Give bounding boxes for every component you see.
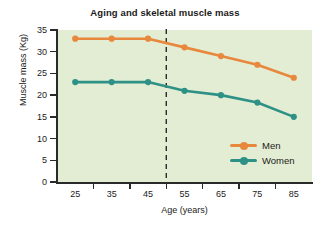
y-tick-mark <box>50 138 57 139</box>
x-tick-label: 75 <box>237 189 277 199</box>
x-tick-label: 65 <box>201 189 241 199</box>
y-tick-mark <box>50 94 57 95</box>
x-tick-label: 45 <box>128 189 168 199</box>
y-tick-mark <box>50 29 57 30</box>
y-tick-mark <box>50 51 57 52</box>
legend-marker-women-icon <box>230 155 257 166</box>
x-tick-mark <box>93 183 94 189</box>
y-tick-mark <box>50 160 57 161</box>
legend-label-women: Women <box>262 155 295 166</box>
y-tick-mark <box>50 116 57 117</box>
y-tick-mark <box>50 181 57 182</box>
legend-item-women[interactable]: Women <box>230 153 295 168</box>
x-tick-label: 55 <box>165 189 205 199</box>
legend-marker-men-icon <box>230 140 257 151</box>
y-tick-label: 0 <box>7 177 47 187</box>
x-tick-label: 35 <box>92 189 132 199</box>
x-tick-mark <box>238 183 239 189</box>
x-tick-mark <box>129 183 130 189</box>
y-axis-title: Muscle mass (Kg) <box>18 0 28 145</box>
chart-container: Aging and skeletal muscle mass 051015202… <box>0 0 330 226</box>
chart-legend: Men Women <box>230 138 295 168</box>
x-tick-mark <box>275 183 276 189</box>
x-axis-title: Age (years) <box>57 205 312 215</box>
legend-label-men: Men <box>262 140 280 151</box>
x-tick-mark <box>202 183 203 189</box>
legend-item-men[interactable]: Men <box>230 138 295 153</box>
y-tick-mark <box>50 73 57 74</box>
y-tick-label: 5 <box>7 155 47 165</box>
x-tick-mark <box>166 183 167 189</box>
x-tick-label: 85 <box>274 189 314 199</box>
chart-title: Aging and skeletal muscle mass <box>0 7 330 18</box>
x-tick-label: 25 <box>55 189 95 199</box>
